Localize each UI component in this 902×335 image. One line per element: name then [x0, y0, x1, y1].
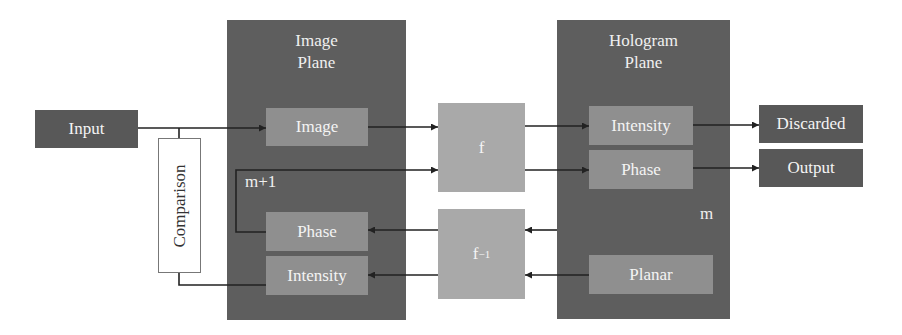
image-plane-image-box: Image	[266, 108, 368, 146]
hologram-plane-planar-box: Planar	[589, 255, 713, 294]
hologram-plane-title: Hologram Plane	[557, 30, 730, 74]
comparison-label: Comparison	[170, 164, 190, 247]
image-plane-intensity-box: Intensity	[266, 256, 368, 295]
hologram-plane-phase-box: Phase	[589, 150, 693, 189]
image-plane-title: Image Plane	[227, 30, 406, 74]
image-plane-phase-box: Phase	[266, 212, 368, 251]
inverse-transform-exponent: −1	[478, 248, 490, 260]
hologram-plane-intensity-box: Intensity	[589, 106, 693, 145]
hologram-plane-iteration-label: m	[700, 204, 713, 224]
image-plane-iteration-label: m+1	[245, 172, 276, 192]
input-box: Input	[35, 110, 138, 148]
inverse-transform-box: f−1	[438, 209, 525, 299]
output-box: Output	[759, 149, 863, 187]
comparison-box: Comparison	[158, 138, 201, 273]
discarded-box: Discarded	[759, 105, 863, 143]
forward-transform-box: f	[438, 103, 525, 192]
